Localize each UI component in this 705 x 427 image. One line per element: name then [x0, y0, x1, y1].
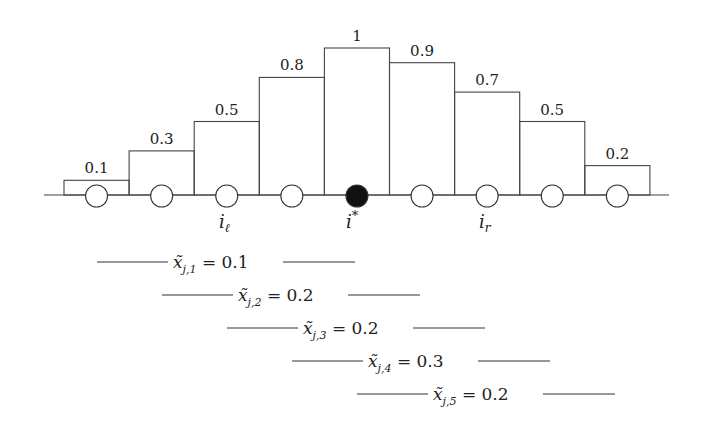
- histogram-bar: [324, 48, 389, 195]
- node-circle: [151, 185, 173, 207]
- bar-value-label: 0.1: [85, 159, 109, 177]
- nodes-group: [86, 185, 629, 207]
- window-equation: x̃j,2 = 0.2: [238, 285, 314, 309]
- histogram-bar: [520, 122, 585, 196]
- bar-value-label: 0.5: [540, 101, 564, 119]
- node-circle: [541, 185, 563, 207]
- i-left-label: iℓ: [219, 211, 230, 235]
- window-equation: x̃j,3 = 0.2: [303, 318, 379, 342]
- node-circle: [281, 185, 303, 207]
- i-star-label: i*: [346, 208, 359, 232]
- bar-value-label: 0.9: [410, 42, 434, 60]
- bar-value-label: 0.7: [475, 71, 499, 89]
- node-circle: [216, 185, 238, 207]
- node-circle: [476, 185, 498, 207]
- histogram-bar: [194, 122, 259, 196]
- bar-value-label: 0.8: [280, 56, 304, 74]
- window-rows-group: x̃j,1 = 0.1x̃j,2 = 0.2x̃j,3 = 0.2x̃j,4 =…: [97, 252, 615, 408]
- bar-value-label: 1: [352, 27, 362, 45]
- histogram-bar: [455, 92, 520, 195]
- window-equation: x̃j,1 = 0.1: [173, 252, 249, 276]
- node-circle: [411, 185, 433, 207]
- bar-value-label: 0.5: [215, 101, 239, 119]
- window-equation: x̃j,5 = 0.2: [433, 384, 509, 408]
- node-circle: [86, 185, 108, 207]
- peak-node-filled: [346, 185, 368, 207]
- histogram-diagram: 0.10.30.50.810.90.70.50.2 iℓ i* ir x̃j,1…: [0, 0, 705, 427]
- i-right-label: ir: [479, 211, 492, 235]
- bars-group: 0.10.30.50.810.90.70.50.2: [64, 27, 650, 195]
- diagram-canvas: 0.10.30.50.810.90.70.50.2 iℓ i* ir x̃j,1…: [0, 0, 705, 427]
- bar-value-label: 0.2: [605, 145, 629, 163]
- histogram-bar: [390, 63, 455, 195]
- window-equation: x̃j,4 = 0.3: [368, 351, 444, 375]
- bar-value-label: 0.3: [150, 130, 174, 148]
- node-circle: [606, 185, 628, 207]
- histogram-bar: [259, 77, 324, 195]
